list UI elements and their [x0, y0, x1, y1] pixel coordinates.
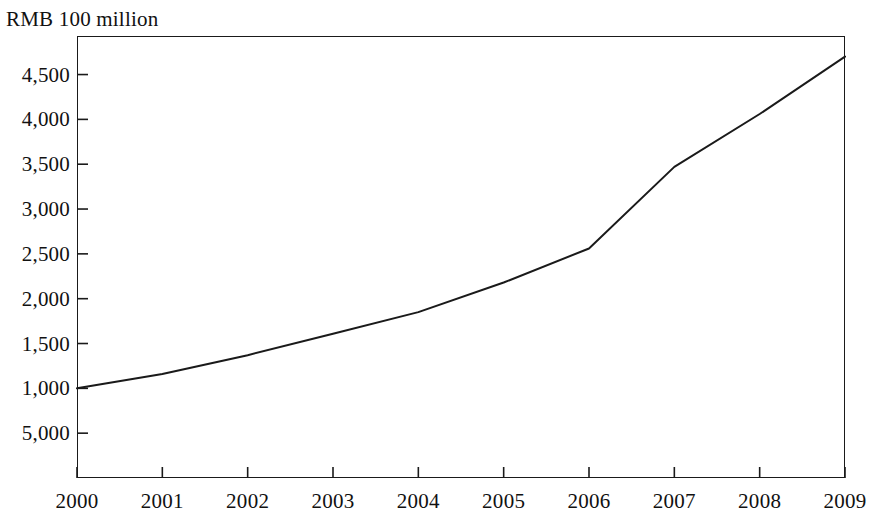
x-axis-tick-label: 2007: [631, 491, 717, 512]
x-axis-tick-label: 2008: [717, 491, 803, 512]
y-axis-tick-label: 1,500: [2, 334, 70, 355]
y-axis-tick-label: 3,500: [2, 154, 70, 175]
x-axis-tick-label: 2003: [290, 491, 376, 512]
x-axis-tick-label: 2002: [205, 491, 291, 512]
x-axis-tick-label: 2004: [375, 491, 461, 512]
y-axis-tick-label: 3,000: [2, 199, 70, 220]
y-axis-tick-label: 1,000: [2, 378, 70, 399]
y-axis-unit-caption: RMB 100 million: [6, 7, 158, 31]
x-axis-tick-label: 2006: [546, 491, 632, 512]
y-axis-tick-label: 2,000: [2, 289, 70, 310]
y-axis-tick-label: 2,500: [2, 244, 70, 265]
x-axis-tick-label: 2001: [119, 491, 205, 512]
x-axis-tick-label: 2000: [34, 491, 120, 512]
x-axis-tick-label: 2009: [802, 491, 871, 512]
x-axis-tick-label: 2005: [461, 491, 547, 512]
y-axis-tick-label: 4,000: [2, 109, 70, 130]
y-axis-tick-label: 4,500: [2, 65, 70, 86]
plot-area-frame: [77, 36, 845, 478]
y-axis-tick-label: 5,000: [2, 423, 70, 444]
